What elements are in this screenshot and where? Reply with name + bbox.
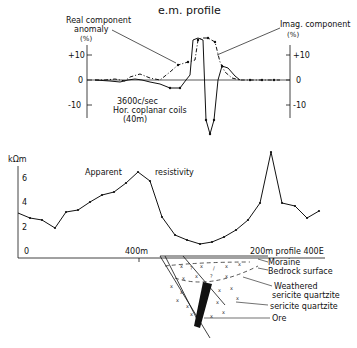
geological-section: x?x/xx xx?x xxxx xxxx xxx xyxy=(160,256,268,338)
real-label-1: Real component xyxy=(66,16,131,25)
label-sericite-quartzite: sericite quartzite xyxy=(270,302,338,311)
svg-text:?: ? xyxy=(210,273,213,279)
label-weathered-quartzite: sericite quartzite xyxy=(272,291,340,300)
svg-text:x: x xyxy=(216,299,219,305)
real-unit: (%) xyxy=(80,35,92,43)
svg-text:x: x xyxy=(176,297,179,303)
real-component-curve xyxy=(95,38,280,81)
ore-body xyxy=(194,282,212,328)
tick-right-plus10: +10 xyxy=(293,51,310,60)
svg-text:x: x xyxy=(225,263,228,269)
tick-6: 6 xyxy=(22,174,27,183)
svg-text:?: ? xyxy=(190,265,193,271)
em-data-points xyxy=(169,37,275,135)
svg-text:x: x xyxy=(190,311,193,317)
svg-text:x: x xyxy=(222,309,225,315)
frequency-note: 3600c/sec xyxy=(117,97,158,106)
svg-text:x: x xyxy=(182,275,185,281)
svg-text:x: x xyxy=(195,273,198,279)
real-label-2: anomaly xyxy=(74,25,109,34)
label-weathered: Weathered xyxy=(274,282,318,291)
resistivity-curve xyxy=(18,152,319,244)
tick-0: 0 xyxy=(24,247,29,256)
svg-text:/: / xyxy=(213,265,215,271)
svg-text:x: x xyxy=(186,303,189,309)
tick-left-0: 0 xyxy=(78,76,83,85)
tick-left-minus10: -10 xyxy=(68,101,81,110)
svg-text:x: x xyxy=(200,263,203,269)
imag-unit: (%) xyxy=(287,31,299,39)
tick-right-minus10: -10 xyxy=(293,101,306,110)
x-label-400m: 400m xyxy=(125,247,148,256)
imag-component-curve xyxy=(95,38,240,134)
tick-right-0: 0 xyxy=(296,76,301,85)
resistivity-data-points xyxy=(29,151,320,245)
resistivity-label-1: Apparent xyxy=(85,168,122,177)
svg-text:x: x xyxy=(180,289,183,295)
spacing-note: (40m) xyxy=(123,115,147,124)
tick-4: 4 xyxy=(22,198,27,207)
em-title: e.m. profile xyxy=(158,4,221,17)
resistivity-label-2: resistivity xyxy=(155,168,194,177)
label-bedrock-surface: Bedrock surface xyxy=(268,267,333,276)
svg-text:x: x xyxy=(238,261,241,267)
coil-note: Hor. coplanar coils xyxy=(113,106,187,115)
tick-left-plus10: +10 xyxy=(68,51,85,60)
svg-text:x: x xyxy=(218,287,221,293)
imag-label: Imag. component xyxy=(280,20,350,29)
resistivity-unit: kΩm xyxy=(8,155,27,164)
real-pointer xyxy=(112,30,176,63)
svg-text:x: x xyxy=(230,285,233,291)
figure: e.m. profile Real component anomaly (%) … xyxy=(0,0,357,348)
tick-2: 2 xyxy=(22,223,27,232)
imag-pointer xyxy=(217,28,280,55)
label-ore: Ore xyxy=(272,314,286,323)
x-label-profile: 200m profile 400E xyxy=(250,247,324,256)
svg-text:x: x xyxy=(236,295,239,301)
svg-text:x: x xyxy=(180,263,183,269)
svg-text:x: x xyxy=(170,283,173,289)
svg-text:x: x xyxy=(225,273,228,279)
label-moraine: Moraine xyxy=(268,258,300,267)
